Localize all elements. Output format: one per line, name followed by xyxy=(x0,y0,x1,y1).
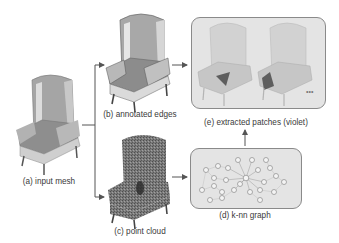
chair-mesh-icon xyxy=(14,72,84,177)
label-extracted-patches: (e) extracted patches (violet) xyxy=(186,118,326,127)
chair-point-cloud-icon xyxy=(104,134,176,230)
label-input-mesh: (a) input mesh xyxy=(8,177,90,186)
patch-chair-1-icon xyxy=(196,20,258,108)
more-patches-ellipsis: ••• xyxy=(306,88,313,95)
chair-annotated-icon xyxy=(104,12,174,112)
label-annotated-edges: (b) annotated edges xyxy=(94,110,186,119)
label-point-cloud: (c) point cloud xyxy=(100,227,180,236)
knn-graph-icon xyxy=(190,148,300,207)
label-knn-graph: (d) k-nn graph xyxy=(205,211,285,220)
